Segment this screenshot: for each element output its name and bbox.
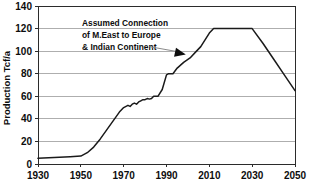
annotation-line-3: & Indian Continent xyxy=(82,42,157,52)
y-tick-label: 100 xyxy=(15,46,32,57)
x-tick-label: 2010 xyxy=(198,170,221,181)
x-tick-label: 1990 xyxy=(155,170,178,181)
x-tick-label: 2050 xyxy=(284,170,307,181)
y-tick-label: 40 xyxy=(21,113,33,124)
assumed-connection-annotation: Assumed Connection of M.East to Europe &… xyxy=(82,18,168,52)
y-tick-label: 60 xyxy=(21,91,33,102)
chart-figure: 020406080100120140 193019501970199020102… xyxy=(0,0,309,190)
plot-background xyxy=(38,6,295,164)
x-tick-label: 1950 xyxy=(70,170,93,181)
annotation-line-1: Assumed Connection xyxy=(82,18,168,28)
y-tick-label: 20 xyxy=(21,136,33,147)
y-axis-tick-labels: 020406080100120140 xyxy=(15,1,32,170)
y-tick-label: 0 xyxy=(26,159,32,170)
y-axis-title: Production Tcf/a xyxy=(1,50,12,125)
x-tick-label: 2030 xyxy=(241,170,264,181)
x-axis-tick-labels: 1930195019701990201020302050 xyxy=(27,170,307,181)
x-tick-label: 1930 xyxy=(27,170,50,181)
production-line-chart: 020406080100120140 193019501970199020102… xyxy=(0,0,309,190)
annotation-line-2: of M.East to Europe xyxy=(82,30,161,40)
y-tick-label: 120 xyxy=(15,23,32,34)
y-tick-label: 140 xyxy=(15,1,32,12)
y-tick-label: 80 xyxy=(21,68,33,79)
x-tick-label: 1970 xyxy=(113,170,136,181)
